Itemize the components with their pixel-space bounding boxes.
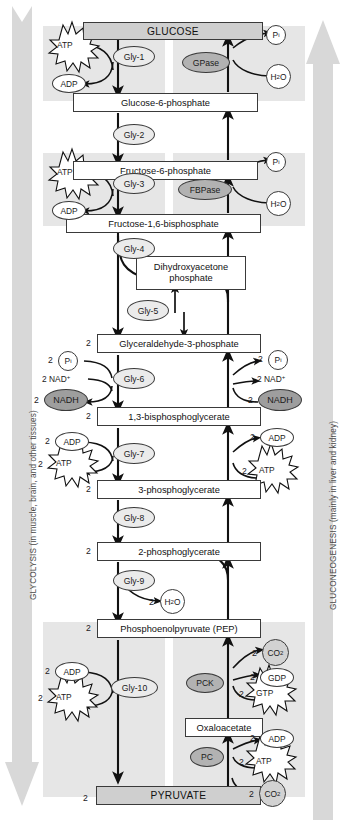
metabolite-box-glucose[interactable]: GLUCOSE	[83, 22, 263, 40]
stoich-pi-gly6: 2	[48, 355, 53, 365]
cofactor-gtp-pck-label: GTP	[256, 688, 273, 698]
stoich-adp-gly7: 2	[45, 436, 50, 446]
enzyme-pck[interactable]: PCK	[186, 673, 224, 693]
dhap-line-1: Dihydroxyacetone	[154, 262, 228, 273]
metabolite-box-glucose-6-phosphate[interactable]: Glucose-6-phosphate	[73, 93, 258, 112]
water-o: O	[174, 597, 181, 607]
enzyme-gly-2[interactable]: Gly-2	[113, 124, 155, 145]
enzyme-gly-7[interactable]: Gly-7	[113, 443, 155, 464]
gly5-interconversion-arrows	[175, 288, 184, 334]
co2-subscript: 2	[277, 791, 280, 797]
enzyme-gly-9[interactable]: Gly-9	[113, 570, 155, 591]
stoich-pi-rev: 2	[258, 354, 263, 364]
enzyme-gly-1[interactable]: Gly-1	[113, 46, 155, 67]
cofactor-co2-pc[interactable]: CO2	[259, 780, 286, 807]
stoich-pyruvate: 2	[83, 793, 88, 803]
cofactor-atp-gly7-label: ATP	[56, 458, 72, 468]
cofactor-atp-gly3-label: ATP	[57, 167, 73, 177]
metabolite-box-pyruvate[interactable]: PYRUVATE	[96, 786, 261, 805]
water-o: O	[280, 72, 287, 82]
cofactor-nad-gly6: 2 NAD+	[42, 374, 70, 384]
enzyme-gly-8[interactable]: Gly-8	[113, 507, 155, 528]
cofactor-adp-gly3[interactable]: ADP	[52, 201, 86, 220]
pi-subscript: i	[70, 358, 71, 364]
enzyme-pc[interactable]: PC	[190, 747, 224, 767]
pi-subscript: i	[280, 357, 281, 363]
water-o: O	[280, 199, 287, 209]
cofactor-gdp-pck[interactable]: GDP	[260, 668, 294, 687]
stoich-atp-pc: 2	[239, 757, 244, 767]
cofactor-adp-gly7[interactable]: ADP	[55, 432, 89, 451]
enzyme-gpase[interactable]: GPase	[182, 52, 230, 73]
gluconeogenesis-banner-label: GLUCONEOGENESIS (mainly in liver and kid…	[329, 421, 338, 610]
cofactor-adp-pc[interactable]: ADP	[260, 729, 294, 748]
stoich-nadh-gly6: 2	[34, 395, 39, 405]
stoich-3-pg: 2	[86, 484, 91, 494]
metabolite-box-2-phosphoglycerate[interactable]: 2-phosphoglycerate	[97, 542, 261, 561]
stoich-adp-pc: 2	[250, 733, 255, 743]
enzyme-gly-10[interactable]: Gly-10	[111, 677, 158, 698]
metabolite-box-fructose-1-6-bisphosphate[interactable]: Fructose-1,6-bisphosphate	[66, 214, 261, 233]
metabolite-box-3-phosphoglycerate[interactable]: 3-phosphoglycerate	[97, 480, 261, 499]
cofactor-nad-g3p-rev: 2 NAD+	[257, 374, 285, 384]
stoich-atp-rev: 2	[242, 466, 247, 476]
stoich-co2-pck: 2	[252, 648, 257, 658]
glycolysis-banner-label: GLYCOLYSIS (in muscle, brain, and other …	[29, 410, 38, 600]
cofactor-adp-bpg-rev[interactable]: ADP	[260, 428, 294, 447]
cofactor-pi-fbpase[interactable]: Pi	[266, 152, 286, 172]
co2-subscript: 2	[280, 650, 283, 656]
nad-symbol: NAD	[49, 374, 67, 384]
nad-superscript: +	[67, 374, 71, 380]
cofactor-atp-gly10-label: ATP	[56, 692, 72, 702]
cofactor-nadh-gly6[interactable]: NADH	[44, 389, 88, 411]
cofactor-water-fbpase[interactable]: H2O	[266, 191, 291, 216]
cofactor-pi-gpase[interactable]: Pi	[266, 25, 286, 45]
enzyme-gly-6[interactable]: Gly-6	[113, 368, 155, 389]
cofactor-atp-pc-label: ATP	[256, 756, 272, 766]
nad-superscript: +	[282, 374, 286, 380]
metabolite-box-fructose-6-phosphate[interactable]: Fructose-6-phosphate	[73, 161, 258, 180]
stoich-h2o-gly9: 2	[149, 597, 154, 607]
stoich-nad-rev: 2	[257, 374, 262, 384]
dhap-line-2: phosphate	[169, 273, 212, 284]
enzyme-fbpase[interactable]: FBPase	[178, 179, 232, 200]
cofactor-adp-gly1[interactable]: ADP	[52, 74, 86, 93]
pi-subscript: i	[278, 32, 279, 38]
metabolite-box-1-3-bisphosphoglycerate[interactable]: 1,3-bisphosphoglycerate	[97, 407, 261, 426]
stoich-gtp-pck: 2	[239, 689, 244, 699]
stoich-co2-pc: 2	[249, 789, 254, 799]
stoich-pep: 2	[86, 623, 91, 633]
stoich-g3p: 2	[86, 338, 91, 348]
metabolite-box-dihydroxyacetone-phosphate[interactable]: Dihydroxyacetone phosphate	[136, 256, 246, 290]
stoich-2-pg: 2	[86, 546, 91, 556]
cofactor-adp-gly10[interactable]: ADP	[55, 662, 89, 681]
stoich-gdp-pck: 2	[250, 672, 255, 682]
enzyme-gly-4[interactable]: Gly-4	[113, 238, 155, 259]
enzyme-gly-3[interactable]: Gly-3	[113, 173, 155, 194]
stoich-nad-gly6: 2	[42, 374, 47, 384]
stoich-nadh-rev: 2	[248, 395, 253, 405]
cofactor-water-gpase[interactable]: H2O	[266, 64, 291, 89]
stoich-adp-rev: 2	[250, 432, 255, 442]
cofactor-water-gly9[interactable]: H2O	[160, 589, 185, 614]
pathway-diagram: GLYCOLYSIS (in muscle, brain, and other …	[0, 0, 345, 826]
stoich-atp-gly10: 2	[38, 693, 43, 703]
stoich-adp-gly10: 2	[45, 666, 50, 676]
cofactor-atp-gly1-label: ATP	[57, 40, 73, 50]
cofactor-pi-gly6[interactable]: Pi	[58, 351, 78, 371]
glycolysis-direction-banner	[5, 6, 39, 806]
nad-symbol: NAD	[264, 374, 282, 384]
metabolite-box-glyceraldehyde-3-phosphate[interactable]: Glyceraldehyde-3-phosphate	[97, 334, 261, 353]
co2-symbol: CO	[265, 789, 278, 799]
co2-symbol: CO	[268, 648, 281, 658]
cofactor-nadh-g3p-rev[interactable]: NADH	[258, 389, 302, 411]
cofactor-co2-pck[interactable]: CO2	[262, 639, 289, 666]
stoich-1-3-bpg: 2	[86, 411, 91, 421]
metabolite-box-phosphoenolpyruvate[interactable]: Phosphoenolpyruvate (PEP)	[97, 619, 261, 638]
cofactor-atp-bpg-rev-label: ATP	[259, 465, 275, 475]
pi-subscript: i	[278, 159, 279, 165]
enzyme-gly-5[interactable]: Gly-5	[127, 300, 169, 321]
stoich-atp-gly7: 2	[38, 459, 43, 469]
cofactor-pi-g3p-rev[interactable]: Pi	[268, 350, 288, 370]
